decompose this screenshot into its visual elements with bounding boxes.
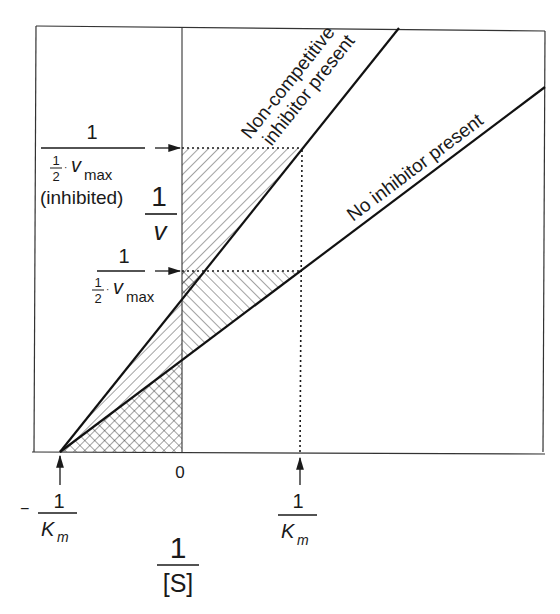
y-marker-inhibited-numerator: 1 (86, 121, 97, 143)
x-marker-numerator: 1 (53, 490, 64, 512)
noncompetitive-label: Non-competitive inhibitor present (237, 17, 359, 156)
half-den: 2 (52, 169, 59, 184)
x-axis-label-numerator: 1 (170, 531, 187, 564)
km-sub: m (297, 532, 309, 548)
half-den: 2 (94, 291, 101, 306)
y-marker-numerator: 1 (118, 245, 129, 267)
y-axis-label-denominator: v (154, 216, 169, 246)
km-vertical-guide (300, 150, 302, 452)
x-marker-numerator: 1 (292, 490, 303, 512)
dot-separator: · (64, 162, 67, 173)
km-k: K (41, 518, 56, 540)
no-inhibitor-line (60, 87, 545, 452)
x-marker-positive-km: 1 K m (278, 458, 317, 548)
dot-separator: · (106, 284, 109, 295)
minus-sign: − (20, 500, 29, 517)
half-num: 1 (52, 153, 59, 168)
vmax-v: v (71, 154, 82, 176)
vmax-v: v (113, 276, 124, 298)
y-axis-label-numerator: 1 (151, 181, 167, 212)
km-k: K (281, 520, 296, 542)
x-axis (32, 452, 545, 454)
km-sub: m (57, 529, 69, 545)
no-inhibitor-label: No inhibitor present (343, 109, 488, 225)
no-inhibitor-label-text: No inhibitor present (343, 109, 488, 225)
x-axis-label: 1 [S] (157, 531, 199, 597)
x-origin-label: 0 (175, 463, 184, 482)
noncompetitive-line (60, 28, 399, 452)
vmax-sub: max (126, 288, 155, 305)
x-axis-label-denominator: [S] (163, 569, 194, 597)
half-num: 1 (94, 275, 101, 290)
lineweaver-burk-diagram: Non-competitive inhibitor present No inh… (0, 0, 560, 614)
y-marker-uninhibited: 1 1 2 · v max (92, 245, 180, 306)
x-marker-negative-km: − 1 K m (20, 456, 77, 545)
y-axis-label: 1 v (145, 181, 177, 246)
inhibited-note: (inhibited) (40, 187, 123, 208)
vmax-sub: max (84, 166, 113, 183)
